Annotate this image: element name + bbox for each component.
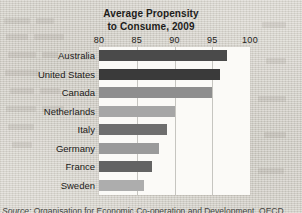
- chart-title: Average Propensity to Consume, 2009: [0, 8, 302, 33]
- bar-united-states: [99, 69, 220, 80]
- bar-sweden: [99, 180, 144, 191]
- bar-netherlands: [99, 106, 175, 117]
- x-axis-tick-labels: 80859095100: [0, 34, 302, 47]
- category-label-sweden: Sweden: [0, 180, 95, 191]
- category-label-australia: Australia: [0, 50, 95, 61]
- category-label-canada: Canada: [0, 87, 95, 98]
- category-label-germany: Germany: [0, 143, 95, 154]
- y-axis-category-labels: AustraliaUnited StatesCanadaNetherlandsI…: [0, 47, 95, 195]
- chart-title-line-1: Average Propensity: [0, 8, 302, 21]
- x-tick-label-80: 80: [94, 34, 105, 46]
- bar-series: [99, 47, 302, 195]
- bar-germany: [99, 143, 159, 154]
- bar-france: [99, 161, 152, 172]
- source-label: Source:: [2, 206, 31, 213]
- source-note: Source: Organisation for Economic Co-ope…: [2, 206, 302, 213]
- chart-page: Average Propensity to Consume, 2009 8085…: [0, 0, 302, 213]
- bar-australia: [99, 50, 227, 61]
- x-tick-label-90: 90: [169, 34, 180, 46]
- category-label-italy: Italy: [0, 124, 95, 135]
- x-tick-label-100: 100: [242, 34, 258, 46]
- bar-italy: [99, 124, 167, 135]
- category-label-france: France: [0, 161, 95, 172]
- x-tick-label-85: 85: [131, 34, 142, 46]
- bar-canada: [99, 87, 212, 98]
- chart-title-line-2: to Consume, 2009: [0, 21, 302, 34]
- category-label-netherlands: Netherlands: [0, 106, 95, 117]
- source-text: Organisation for Economic Co-operation a…: [34, 206, 284, 213]
- x-tick-label-95: 95: [207, 34, 218, 46]
- category-label-united-states: United States: [0, 69, 95, 80]
